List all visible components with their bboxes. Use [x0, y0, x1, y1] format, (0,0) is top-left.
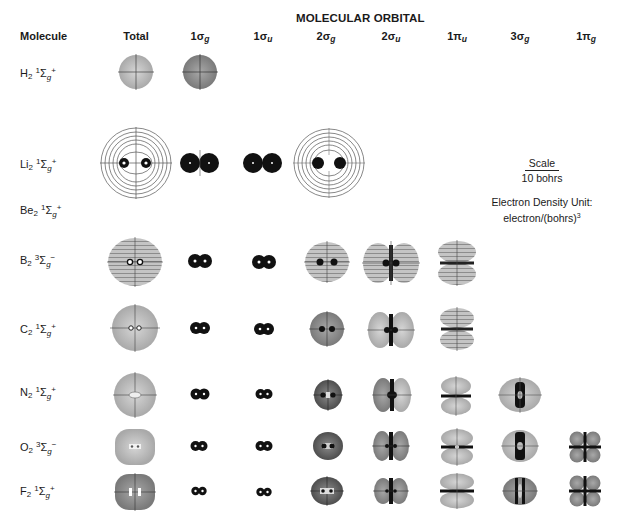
col-sub: g: [591, 34, 596, 44]
density-unit-legend: Electron Density Unit: electron/(bohrs)3: [478, 196, 606, 225]
orbital-plot-b2-total: [107, 237, 163, 287]
molecule-label-o2: O2 3Σg−: [20, 440, 56, 456]
orbital-plot-b2-1sg: [187, 252, 213, 270]
col-label: 2σ: [382, 30, 396, 42]
orbital-plot-c2-1sg: [189, 321, 211, 335]
orbital-plot-n2-1su: [255, 388, 273, 400]
col-sub: g: [330, 34, 335, 44]
orbital-plot-o2-total: [114, 428, 156, 466]
molecular-orbital-title: MOLECULAR ORBITAL: [296, 12, 425, 24]
col-label: 1π: [576, 30, 591, 42]
molecule-label-be2: Be2 1Σg+: [20, 203, 61, 219]
orbital-plot-o2-1su: [255, 440, 273, 452]
col-header-2su: 2σu: [361, 30, 421, 44]
orbital-plot-b2-2sg: [304, 241, 350, 283]
orbital-plot-h2-total: [118, 54, 154, 90]
col-sub: u: [395, 34, 400, 44]
col-header-1sg: 1σg: [170, 30, 230, 44]
col-header-1pu: 1πu: [427, 30, 487, 44]
orbital-plot-o2-2su: [372, 429, 410, 463]
scale-label: Scale: [525, 157, 559, 171]
col-label: 1σ: [254, 30, 268, 42]
orbital-plot-h2-1sg: [182, 54, 218, 90]
col-label: 1π: [447, 30, 462, 42]
orbital-plot-o2-3sg: [501, 429, 539, 463]
density-unit-title: Electron Density Unit:: [478, 196, 606, 209]
orbital-plot-f2-1sg: [191, 486, 207, 496]
orbital-plot-o2-2sg: [312, 431, 344, 461]
scale-legend: Scale 10 bohrs: [490, 157, 594, 184]
molecule-column-header: Molecule: [20, 30, 67, 42]
orbital-plot-f2-1su: [256, 487, 272, 497]
orbital-plot-c2-2su: [367, 310, 415, 350]
orbital-plot-c2-1su: [253, 322, 275, 336]
orbital-plot-c2-total: [110, 304, 160, 352]
orbital-plot-li2-1su: [243, 150, 283, 176]
col-label: Total: [123, 30, 148, 42]
orbital-plot-f2-2sg: [310, 476, 344, 506]
orbital-plot-n2-1sg: [190, 388, 210, 400]
molecule-label-f2: F2 1Σg+: [20, 484, 55, 500]
orbital-plot-f2-1pg: [569, 474, 601, 508]
orbital-plot-b2-1pu: [437, 240, 477, 286]
col-header-total: Total: [106, 30, 166, 42]
molecule-label-b2: B2 3Σg−: [20, 253, 55, 269]
molecule-label-h2: H2 1Σg+: [20, 66, 56, 82]
col-label: 1σ: [191, 30, 205, 42]
orbital-plot-o2-1sg: [190, 440, 208, 452]
orbital-plot-n2-1pu: [440, 376, 472, 416]
col-header-3sg: 3σg: [490, 30, 550, 44]
orbital-plot-li2-2sg: [293, 128, 365, 198]
col-sub: u: [462, 34, 467, 44]
col-header-2sg: 2σg: [296, 30, 356, 44]
col-sub: g: [524, 34, 529, 44]
orbital-plot-n2-3sg: [498, 377, 542, 413]
col-sub: g: [204, 34, 209, 44]
orbital-plot-n2-total: [113, 372, 157, 418]
orbital-plot-o2-1pg: [569, 430, 601, 464]
col-header-1pg: 1πg: [556, 30, 616, 44]
orbital-plot-f2-total: [114, 473, 156, 511]
density-unit-value: electron/(bohrs)3: [478, 209, 606, 225]
orbital-plot-b2-2su: [362, 241, 420, 285]
scale-value: 10 bohrs: [490, 172, 594, 184]
col-sub: u: [267, 34, 272, 44]
orbital-plot-li2-1sg: [180, 150, 220, 176]
orbital-plot-n2-2su: [372, 376, 412, 414]
orbital-plot-li2-total: [100, 127, 172, 199]
col-label: 2σ: [317, 30, 331, 42]
molecule-label-li2: Li2 1Σg+: [20, 157, 56, 173]
orbital-plot-f2-3sg: [502, 476, 538, 506]
orbital-plot-n2-2sg: [313, 379, 343, 411]
orbital-plot-o2-1pu: [440, 428, 474, 466]
orbital-plot-b2-1su: [251, 253, 277, 271]
orbital-plot-f2-2su: [373, 476, 409, 506]
molecule-label-c2: C2 1Σg+: [20, 322, 56, 338]
orbital-plot-c2-2sg: [309, 311, 345, 347]
molecule-label-n2: N2 1Σg+: [20, 385, 56, 401]
col-header-1su: 1σu: [233, 30, 293, 44]
orbital-plot-c2-1pu: [439, 307, 475, 351]
col-label: 3σ: [511, 30, 525, 42]
orbital-plot-f2-1pu: [439, 473, 475, 509]
